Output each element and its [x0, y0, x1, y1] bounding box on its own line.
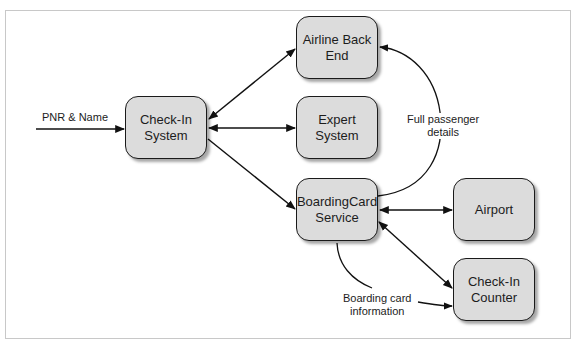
edge-label-boarding-card-information: Boarding card information — [343, 292, 412, 318]
node-airline-back-end: Airline Back End — [296, 16, 378, 79]
edge-label-pnr-name: PNR & Name — [42, 111, 108, 124]
node-boarding-card-service: BoardingCard Service — [296, 178, 378, 241]
node-label: Check-In System — [140, 112, 192, 144]
node-expert-system: Expert System — [296, 96, 378, 159]
node-label: Check-In Counter — [468, 274, 520, 306]
edge-checkin-airline — [209, 49, 295, 119]
edge-label-full-passenger-details: Full passenger details — [407, 113, 479, 139]
edge-boardingcard-counter — [379, 222, 452, 288]
node-check-in-system: Check-In System — [125, 96, 207, 159]
node-label: Airline Back End — [303, 32, 372, 64]
node-label: Expert System — [315, 112, 358, 144]
node-label: Airport — [475, 202, 513, 218]
node-airport: Airport — [453, 178, 535, 241]
node-label: BoardingCard Service — [297, 194, 377, 226]
edge-boardingcard-counter-curve-tail — [418, 302, 452, 306]
edge-checkin-boardingcard — [208, 139, 295, 209]
edge-boardingcard-counter-curve — [337, 243, 372, 288]
node-check-in-counter: Check-In Counter — [453, 258, 535, 321]
